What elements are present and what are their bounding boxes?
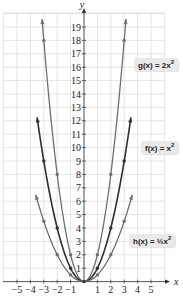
y-tick-label: 6 — [76, 196, 81, 207]
x-tick-label: 5 — [149, 284, 154, 295]
y-tick-label: 4 — [76, 223, 81, 234]
data-point — [42, 220, 45, 223]
data-point — [96, 253, 99, 256]
y-tick-label: 18 — [71, 35, 81, 46]
y-tick-label: 15 — [71, 75, 81, 86]
y-tick-label: 1 — [76, 263, 81, 274]
legend-label-g: g(x) = 2x2 — [134, 58, 178, 71]
data-point — [56, 226, 59, 229]
x-tick-label: −1 — [65, 284, 76, 295]
x-tick-label: −3 — [38, 284, 49, 295]
y-tick-label: 12 — [71, 115, 81, 126]
data-point — [109, 226, 112, 229]
x-tick-label: −2 — [52, 284, 63, 295]
data-point — [56, 173, 59, 176]
y-axis-label: y — [79, 0, 85, 10]
vertex-point — [82, 280, 85, 283]
data-point — [56, 253, 59, 256]
x-tick-label: 1 — [95, 284, 100, 295]
y-tick-label: 16 — [71, 62, 81, 73]
y-tick-label: 11 — [71, 129, 81, 140]
y-tick-label: 13 — [71, 102, 81, 113]
x-tick-label: 2 — [108, 284, 113, 295]
x-tick-label: 4 — [135, 284, 140, 295]
data-point — [42, 159, 45, 162]
x-tick-label: 3 — [122, 284, 127, 295]
y-tick-label: 8 — [76, 169, 81, 180]
data-point — [69, 267, 72, 270]
x-tick-label: −4 — [25, 284, 36, 295]
curve-arrow-icon — [129, 195, 133, 200]
y-tick-label: 17 — [71, 48, 81, 59]
legend-label-h: h(x) = ½x2 — [129, 234, 175, 247]
data-point — [123, 39, 126, 42]
legend-label-f: f(x) = x2 — [141, 141, 178, 154]
data-point — [109, 173, 112, 176]
data-point — [96, 273, 99, 276]
x-axis-label: x — [173, 276, 179, 287]
data-point — [123, 220, 126, 223]
y-tick-label: 3 — [76, 236, 81, 247]
data-point — [123, 159, 126, 162]
x-axis-arrow-icon — [165, 279, 170, 283]
y-tick-label: 7 — [76, 182, 81, 193]
y-tick-label: 5 — [76, 209, 81, 220]
data-point — [69, 273, 72, 276]
data-point — [69, 253, 72, 256]
y-tick-label: 2 — [76, 249, 81, 260]
y-tick-label: 10 — [71, 142, 81, 153]
x-tick-label: −5 — [12, 284, 23, 295]
curve-arrow-icon — [35, 195, 39, 200]
y-tick-label: 19 — [71, 22, 81, 33]
data-point — [96, 267, 99, 270]
data-point — [42, 39, 45, 42]
y-tick-label: 14 — [71, 89, 81, 100]
data-point — [109, 253, 112, 256]
y-tick-label: 9 — [76, 156, 81, 167]
